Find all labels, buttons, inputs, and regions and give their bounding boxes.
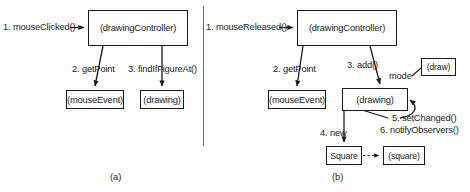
message-label-b-add: 3. add(): [347, 60, 378, 70]
node-drawing-controller-a[interactable]: (drawingController): [88, 10, 188, 46]
message-label-a-findiffigureat: 3. findIfFigureAt(): [128, 64, 197, 74]
node-draw-b[interactable]: (draw): [421, 58, 456, 76]
node-drawing-a[interactable]: (drawing): [140, 90, 184, 109]
node-label: (draw): [427, 62, 450, 72]
message-label-b-mousereleased: 1. mouseReleased(): [206, 22, 287, 32]
node-drawing-b[interactable]: (drawing): [342, 88, 408, 111]
uml-collaboration-figure: (square) dashed instantiation --> (drawi…: [0, 0, 470, 192]
node-square-class-b[interactable]: Square: [326, 146, 362, 165]
message-label-a-mouseclicked: 1. mouseClicked(): [3, 22, 75, 32]
message-label-b-notifyobservers: 6. notifyObservers(): [380, 125, 459, 135]
node-mouse-event-b[interactable]: (mouseEvent): [268, 90, 326, 109]
node-label: (mouseEvent): [269, 95, 325, 105]
node-square-object-b[interactable]: (square): [383, 146, 425, 165]
arrow-b-notifyobservers: [362, 110, 388, 118]
message-label-a-getpoint: 2. getPoint: [72, 64, 115, 74]
message-label-b-new: 4. new: [320, 128, 347, 138]
link-b-mode: [412, 68, 421, 76]
node-label: (drawing): [356, 95, 393, 105]
caption-b: (b): [332, 172, 343, 182]
node-label: (drawingController): [309, 23, 385, 33]
figure-divider: [203, 6, 204, 146]
node-label: (mouseEvent): [67, 95, 123, 105]
node-label: (drawingController): [100, 23, 176, 33]
message-label-b-getpoint: 2. getPoint: [273, 64, 316, 74]
node-mouse-event-a[interactable]: (mouseEvent): [66, 90, 124, 109]
message-label-b-setchanged: 5. setChanged(): [392, 113, 456, 123]
node-label: (square): [388, 151, 420, 161]
link-label-b-mode: mode: [389, 71, 412, 81]
node-label: (drawing): [143, 95, 180, 105]
node-label: Square: [330, 151, 357, 161]
caption-a: (a): [110, 172, 121, 182]
node-drawing-controller-b[interactable]: (drawingController): [297, 10, 397, 46]
